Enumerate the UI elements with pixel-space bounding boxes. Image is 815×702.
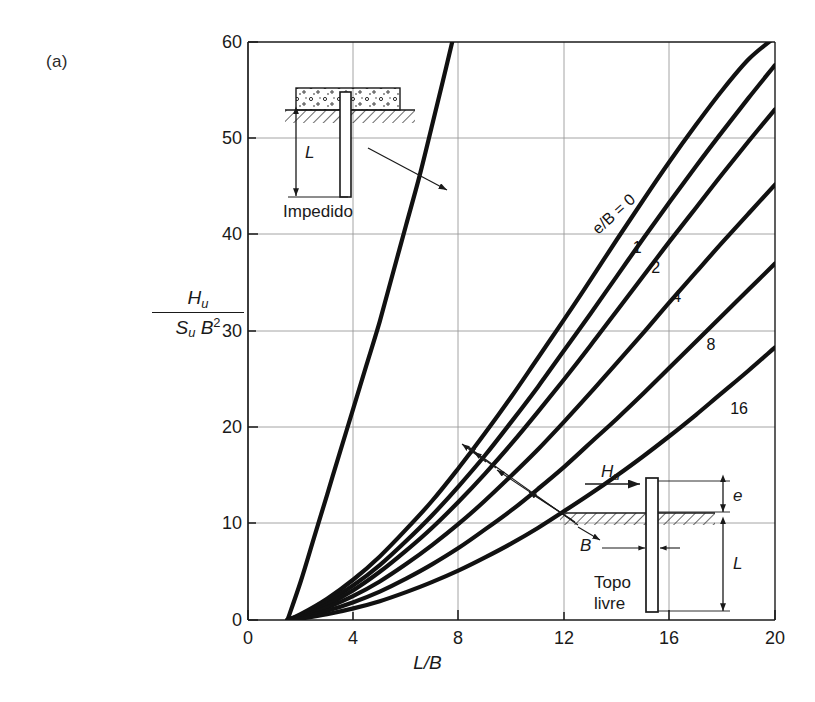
inset-free-head-caption-line1: Topo xyxy=(594,573,631,593)
figure-container: (a) Hu Su B2 L/B 60 50 40 30 20 10 0 0 4… xyxy=(0,0,815,702)
curve-8 xyxy=(288,264,776,620)
plot-area xyxy=(0,0,815,702)
curve-1 xyxy=(288,65,776,620)
inset-free-head-caption-line2: livre xyxy=(594,594,625,614)
inset-free-head-eccentricity-label: e xyxy=(733,486,742,506)
curve-label-16: 16 xyxy=(730,400,748,418)
grid-lines xyxy=(248,42,775,620)
curve-label-8: 8 xyxy=(706,336,715,354)
inset-fixed-head-caption: Impedido xyxy=(283,202,353,222)
curve-4 xyxy=(288,185,776,620)
curve-label-2: 2 xyxy=(651,259,660,277)
inset-fixed-head-length-label: L xyxy=(305,143,314,163)
inset-free-head-width-label: B xyxy=(580,536,591,556)
data-curves xyxy=(288,37,776,620)
inset-free-head-length-label: L xyxy=(733,554,742,574)
inset-free-head-force-label: Hu xyxy=(601,462,620,482)
curve-label-4: 4 xyxy=(672,288,681,306)
curve-label-1: 1 xyxy=(633,239,642,257)
